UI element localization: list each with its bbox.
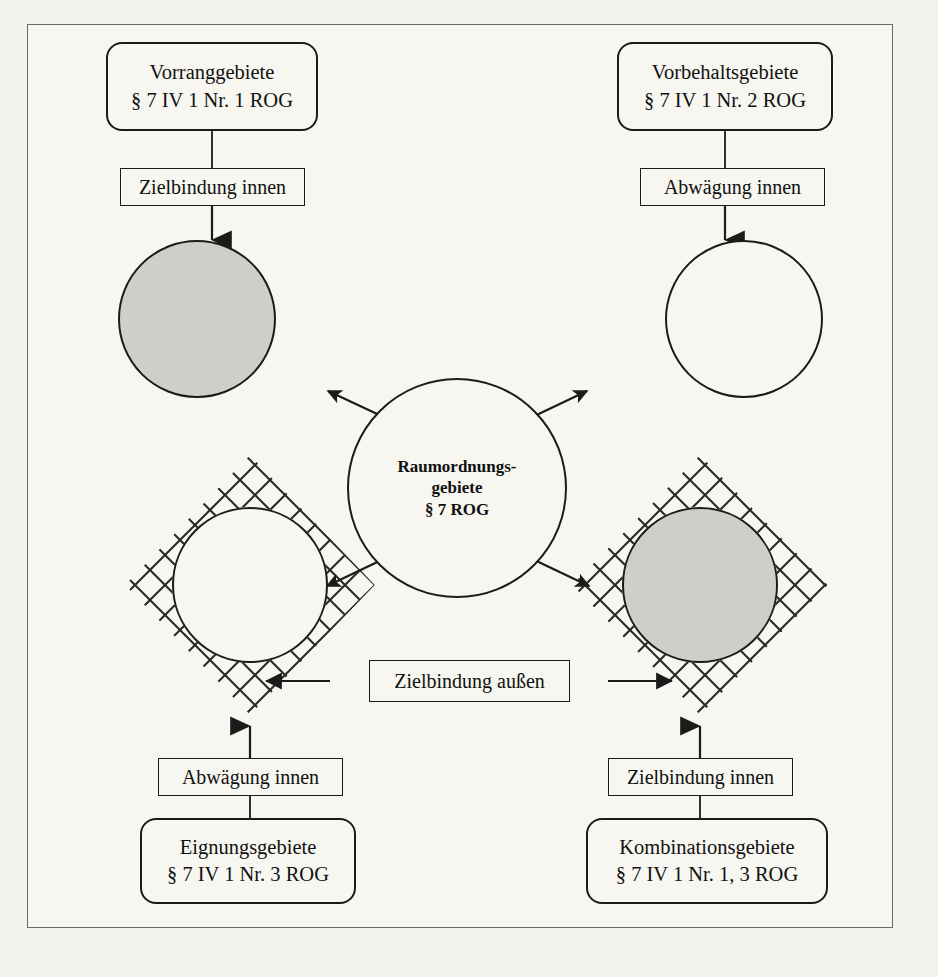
category-ref-kombinationsgebiete: § 7 IV 1 Nr. 1, 3 ROG (616, 861, 798, 888)
page-background: Raumordnungs- gebiete § 7 ROG Vorranggeb… (0, 0, 938, 977)
relation-box-abwaegung-innen-bottom-left: Abwägung innen (158, 758, 343, 796)
relation-label-bottom-right: Zielbindung innen (627, 766, 774, 789)
relation-box-zielbindung-innen-top-left: Zielbindung innen (120, 168, 305, 206)
circle-vorbehaltsgebiete (665, 240, 823, 398)
relation-label-zielbindung-aussen: Zielbindung außen (394, 670, 545, 693)
central-circle-raumordnungsgebiete: Raumordnungs- gebiete § 7 ROG (347, 378, 567, 598)
circle-kombinationsgebiete (622, 507, 778, 663)
relation-box-zielbindung-aussen: Zielbindung außen (369, 660, 570, 702)
central-label-line1: Raumordnungs- (397, 456, 516, 477)
category-name-vorbehaltsgebiete: Vorbehaltsgebiete (652, 59, 799, 86)
central-label-line3: § 7 ROG (425, 499, 489, 520)
relation-label-top-left: Zielbindung innen (139, 176, 286, 199)
category-ref-vorbehaltsgebiete: § 7 IV 1 Nr. 2 ROG (644, 87, 806, 114)
category-name-vorranggebiete: Vorranggebiete (150, 59, 275, 86)
relation-label-top-right: Abwägung innen (664, 176, 801, 199)
category-box-vorbehaltsgebiete: Vorbehaltsgebiete § 7 IV 1 Nr. 2 ROG (617, 42, 833, 131)
category-ref-eignungsgebiete: § 7 IV 1 Nr. 3 ROG (167, 861, 329, 888)
category-ref-vorranggebiete: § 7 IV 1 Nr. 1 ROG (131, 87, 293, 114)
relation-box-abwaegung-innen-top-right: Abwägung innen (640, 168, 825, 206)
category-box-kombinationsgebiete: Kombinationsgebiete § 7 IV 1 Nr. 1, 3 RO… (586, 818, 828, 904)
category-box-vorranggebiete: Vorranggebiete § 7 IV 1 Nr. 1 ROG (106, 42, 318, 131)
central-label-line2: gebiete (432, 477, 483, 498)
relation-box-zielbindung-innen-bottom-right: Zielbindung innen (608, 758, 793, 796)
category-box-eignungsgebiete: Eignungsgebiete § 7 IV 1 Nr. 3 ROG (140, 818, 356, 904)
category-name-eignungsgebiete: Eignungsgebiete (180, 834, 317, 861)
category-name-kombinationsgebiete: Kombinationsgebiete (619, 834, 794, 861)
circle-vorranggebiete (118, 240, 276, 398)
circle-eignungsgebiete (172, 507, 328, 663)
relation-label-bottom-left: Abwägung innen (182, 766, 319, 789)
